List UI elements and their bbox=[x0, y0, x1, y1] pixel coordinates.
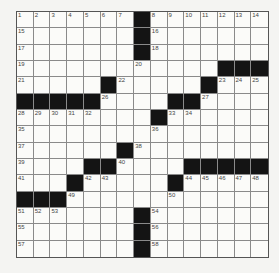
grid-cell[interactable]: 43 bbox=[101, 175, 118, 191]
grid-cell[interactable] bbox=[168, 126, 185, 142]
grid-cell[interactable] bbox=[218, 45, 235, 61]
grid-cell[interactable] bbox=[117, 175, 134, 191]
grid-cell[interactable] bbox=[117, 110, 134, 126]
grid-cell[interactable] bbox=[218, 192, 235, 208]
grid-cell[interactable] bbox=[235, 110, 252, 126]
grid-cell[interactable] bbox=[201, 28, 218, 44]
grid-cell[interactable]: 2 bbox=[34, 12, 51, 28]
grid-cell[interactable]: 6 bbox=[101, 12, 118, 28]
grid-cell[interactable] bbox=[101, 224, 118, 240]
grid-cell[interactable] bbox=[251, 192, 268, 208]
grid-cell[interactable]: 36 bbox=[151, 126, 168, 142]
grid-cell[interactable]: 8 bbox=[151, 12, 168, 28]
grid-cell[interactable]: 52 bbox=[34, 208, 51, 224]
grid-cell[interactable] bbox=[251, 241, 268, 257]
grid-cell[interactable] bbox=[235, 28, 252, 44]
grid-cell[interactable]: 57 bbox=[17, 241, 34, 257]
grid-cell[interactable] bbox=[134, 77, 151, 93]
grid-cell[interactable]: 9 bbox=[168, 12, 185, 28]
grid-cell[interactable] bbox=[218, 28, 235, 44]
grid-cell[interactable] bbox=[151, 77, 168, 93]
grid-cell[interactable]: 41 bbox=[17, 175, 34, 191]
grid-cell[interactable] bbox=[67, 224, 84, 240]
grid-cell[interactable] bbox=[101, 208, 118, 224]
grid-cell[interactable] bbox=[134, 126, 151, 142]
grid-cell[interactable]: 37 bbox=[17, 143, 34, 159]
grid-cell[interactable] bbox=[251, 94, 268, 110]
grid-cell[interactable] bbox=[251, 45, 268, 61]
grid-cell[interactable]: 58 bbox=[151, 241, 168, 257]
grid-cell[interactable] bbox=[67, 241, 84, 257]
grid-cell[interactable]: 19 bbox=[17, 61, 34, 77]
grid-cell[interactable] bbox=[251, 126, 268, 142]
grid-cell[interactable] bbox=[67, 45, 84, 61]
grid-cell[interactable] bbox=[168, 77, 185, 93]
grid-cell[interactable]: 39 bbox=[17, 159, 34, 175]
grid-cell[interactable]: 42 bbox=[84, 175, 101, 191]
grid-cell[interactable] bbox=[151, 175, 168, 191]
grid-cell[interactable] bbox=[151, 143, 168, 159]
grid-cell[interactable]: 49 bbox=[67, 192, 84, 208]
grid-cell[interactable] bbox=[184, 208, 201, 224]
grid-cell[interactable]: 28 bbox=[17, 110, 34, 126]
grid-cell[interactable]: 10 bbox=[184, 12, 201, 28]
grid-cell[interactable]: 40 bbox=[117, 159, 134, 175]
grid-cell[interactable] bbox=[168, 28, 185, 44]
grid-cell[interactable] bbox=[50, 28, 67, 44]
grid-cell[interactable]: 14 bbox=[251, 12, 268, 28]
grid-cell[interactable] bbox=[184, 28, 201, 44]
grid-cell[interactable] bbox=[168, 159, 185, 175]
grid-cell[interactable] bbox=[101, 192, 118, 208]
grid-cell[interactable] bbox=[84, 77, 101, 93]
grid-cell[interactable] bbox=[101, 28, 118, 44]
grid-cell[interactable] bbox=[101, 126, 118, 142]
grid-cell[interactable] bbox=[151, 159, 168, 175]
grid-cell[interactable] bbox=[50, 61, 67, 77]
grid-cell[interactable] bbox=[67, 77, 84, 93]
grid-cell[interactable] bbox=[84, 28, 101, 44]
grid-cell[interactable] bbox=[151, 94, 168, 110]
grid-cell[interactable] bbox=[168, 208, 185, 224]
grid-cell[interactable] bbox=[235, 126, 252, 142]
grid-cell[interactable] bbox=[50, 77, 67, 93]
grid-cell[interactable] bbox=[101, 241, 118, 257]
grid-cell[interactable] bbox=[101, 143, 118, 159]
grid-cell[interactable]: 27 bbox=[201, 94, 218, 110]
grid-cell[interactable] bbox=[235, 224, 252, 240]
grid-cell[interactable] bbox=[201, 192, 218, 208]
grid-cell[interactable]: 23 bbox=[218, 77, 235, 93]
grid-cell[interactable]: 26 bbox=[101, 94, 118, 110]
grid-cell[interactable] bbox=[67, 159, 84, 175]
grid-cell[interactable] bbox=[67, 143, 84, 159]
grid-cell[interactable] bbox=[168, 61, 185, 77]
grid-cell[interactable]: 25 bbox=[251, 77, 268, 93]
grid-cell[interactable] bbox=[218, 208, 235, 224]
grid-cell[interactable] bbox=[34, 28, 51, 44]
grid-cell[interactable] bbox=[218, 110, 235, 126]
grid-cell[interactable] bbox=[50, 126, 67, 142]
grid-cell[interactable]: 45 bbox=[201, 175, 218, 191]
grid-cell[interactable] bbox=[184, 192, 201, 208]
grid-cell[interactable] bbox=[67, 208, 84, 224]
grid-cell[interactable]: 7 bbox=[117, 12, 134, 28]
grid-cell[interactable] bbox=[101, 110, 118, 126]
grid-cell[interactable]: 4 bbox=[67, 12, 84, 28]
grid-cell[interactable] bbox=[184, 143, 201, 159]
grid-cell[interactable]: 3 bbox=[50, 12, 67, 28]
grid-cell[interactable]: 50 bbox=[168, 192, 185, 208]
grid-cell[interactable] bbox=[50, 143, 67, 159]
grid-cell[interactable] bbox=[201, 126, 218, 142]
grid-cell[interactable] bbox=[117, 45, 134, 61]
grid-cell[interactable]: 31 bbox=[67, 110, 84, 126]
grid-cell[interactable]: 38 bbox=[134, 143, 151, 159]
grid-cell[interactable] bbox=[84, 45, 101, 61]
grid-cell[interactable] bbox=[50, 159, 67, 175]
grid-cell[interactable]: 47 bbox=[235, 175, 252, 191]
grid-cell[interactable] bbox=[201, 208, 218, 224]
grid-cell[interactable]: 21 bbox=[17, 77, 34, 93]
grid-cell[interactable] bbox=[184, 77, 201, 93]
grid-cell[interactable] bbox=[117, 61, 134, 77]
grid-cell[interactable] bbox=[184, 224, 201, 240]
grid-cell[interactable] bbox=[101, 45, 118, 61]
grid-cell[interactable] bbox=[117, 126, 134, 142]
